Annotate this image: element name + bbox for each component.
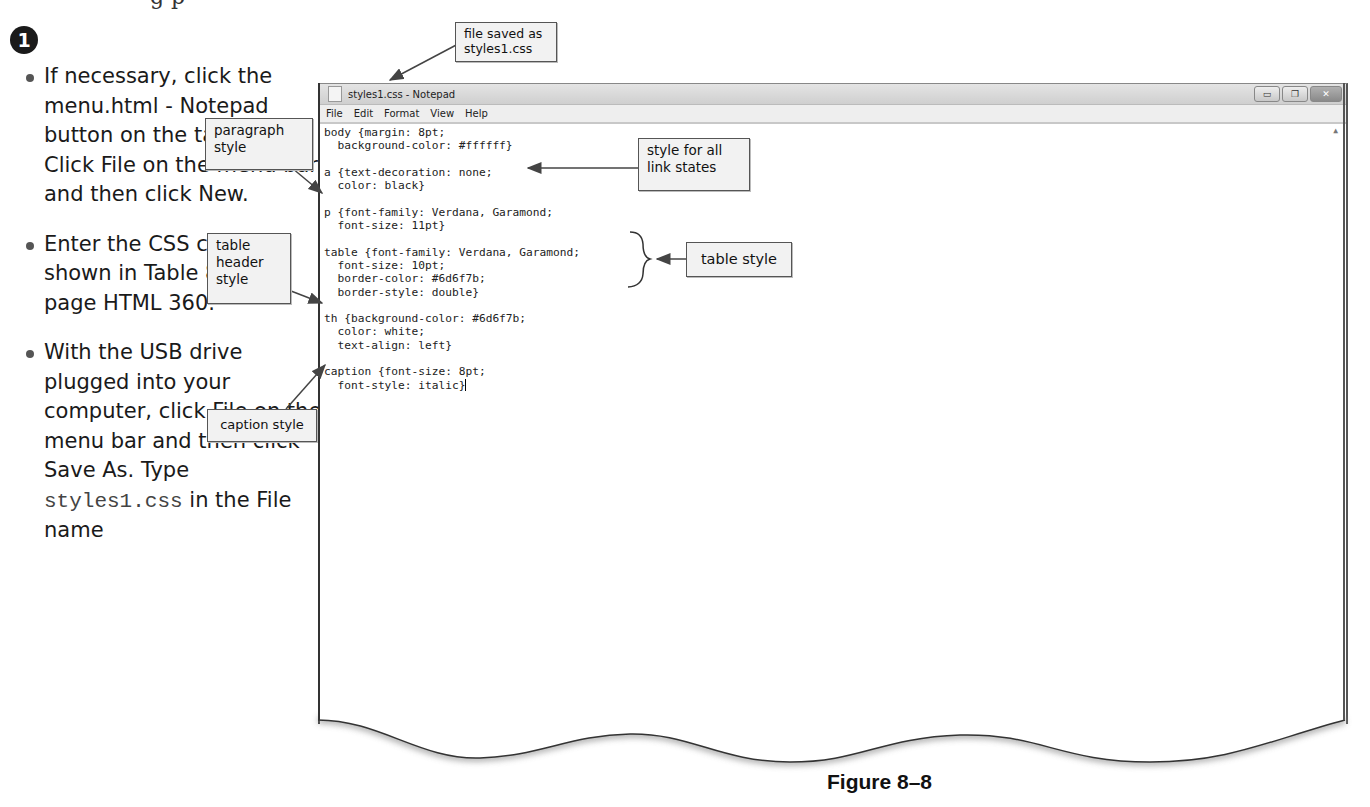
menu-file[interactable]: File	[326, 108, 343, 119]
code-line: a {text-decoration: none;	[324, 166, 1342, 179]
callout-table-style: table style	[686, 242, 792, 277]
menu-edit[interactable]: Edit	[354, 108, 373, 119]
close-button[interactable]: ✕	[1310, 86, 1342, 102]
code-line: text-align: left}	[324, 339, 1342, 352]
code-line: body {margin: 8pt;	[324, 126, 1342, 139]
code-line: border-style: double}	[324, 286, 1342, 299]
code-line: ​	[324, 192, 1342, 205]
callout-link-states: style for all link states	[638, 138, 750, 191]
code-line: font-size: 11pt}	[324, 219, 1342, 232]
menu-view[interactable]: View	[430, 108, 454, 119]
menu-format[interactable]: Format	[384, 108, 419, 119]
bullet-icon	[26, 350, 34, 358]
code-line: caption {font-size: 8pt;	[324, 365, 1342, 378]
notepad-app-icon	[328, 86, 342, 102]
menu-help[interactable]: Help	[465, 108, 488, 119]
code-line: ​	[324, 299, 1342, 312]
code-line: color: white;	[324, 325, 1342, 338]
menu-bar: File Edit Format View Help	[320, 105, 1346, 124]
notepad-window: styles1.css - Notepad ▭ ❐ ✕ File Edit Fo…	[318, 83, 1348, 724]
step-number-badge: 1	[10, 26, 38, 54]
callout-caption-style: caption style	[207, 409, 317, 442]
code-line: ​	[324, 352, 1342, 365]
cropped-heading-text: g p	[150, 0, 185, 9]
window-controls: ▭ ❐ ✕	[1254, 86, 1342, 102]
code-line: background-color: #ffffff}	[324, 139, 1342, 152]
maximize-button[interactable]: ❐	[1282, 86, 1308, 102]
scroll-up-arrow-icon[interactable]: ▲	[1333, 124, 1338, 137]
bullet-icon	[26, 242, 34, 250]
code-line: p {font-family: Verdana, Garamond;	[324, 206, 1342, 219]
title-bar[interactable]: styles1.css - Notepad ▭ ❐ ✕	[320, 84, 1346, 105]
code-line: ​	[324, 153, 1342, 166]
code-filename: styles1.css	[44, 490, 183, 513]
code-line: font-size: 10pt;	[324, 259, 1342, 272]
code-line: border-color: #6d6f7b;	[324, 272, 1342, 285]
callout-paragraph-style: paragraph style	[205, 118, 313, 170]
bullet-icon	[26, 74, 34, 82]
window-title: styles1.css - Notepad	[348, 89, 455, 100]
code-line: font-style: italic}	[324, 379, 1342, 392]
code-line: color: black}	[324, 179, 1342, 192]
code-line: ​	[324, 232, 1342, 245]
text-editor-area[interactable]: body {margin: 8pt; background-color: #ff…	[320, 124, 1346, 724]
figure-caption: Figure 8–8	[827, 770, 932, 794]
minimize-button[interactable]: ▭	[1254, 86, 1280, 102]
callout-file-saved: file saved as styles1.css	[455, 22, 557, 62]
callout-table-header-style: table header style	[207, 233, 291, 304]
code-line: table {font-family: Verdana, Garamond;	[324, 246, 1342, 259]
code-line: th {background-color: #6d6f7b;	[324, 312, 1342, 325]
text-caret	[465, 379, 466, 391]
